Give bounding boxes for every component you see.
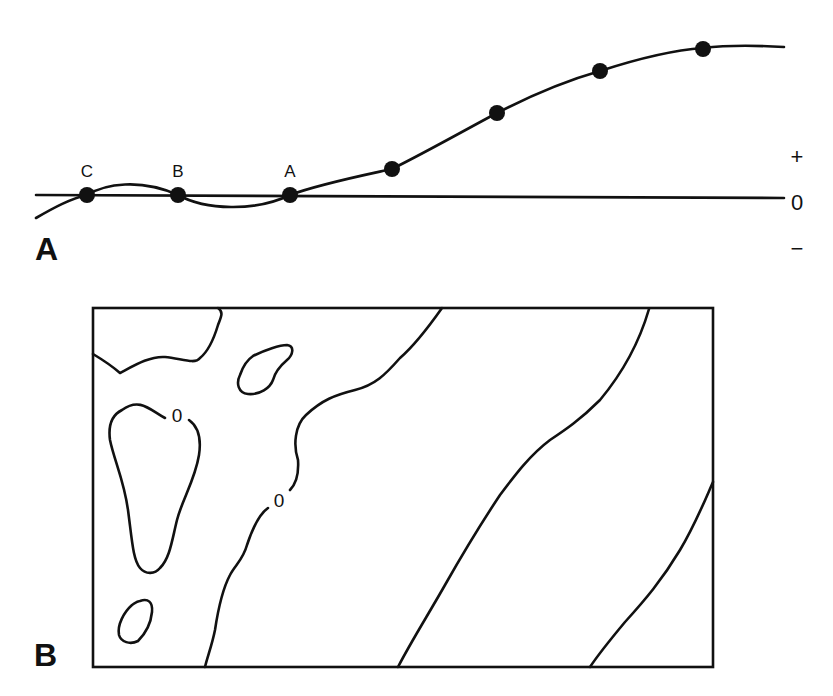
panel-a-label: A [35,231,58,267]
point-b-marker [170,187,186,203]
negative-sign-label: − [791,236,804,261]
zero-label: 0 [791,190,803,215]
point-a-marker [282,187,298,203]
map-frame [93,308,713,667]
panel-b-label: B [34,637,57,673]
figure-canvas: C B A + 0 − A 0 0 B [0,0,833,696]
contour-island-bottom [119,600,152,643]
contour-zero-central [205,308,442,667]
contour-top-left-corner [93,308,221,373]
point-a-label: A [284,162,296,181]
positive-sign-label: + [791,144,804,169]
profile-curve [36,46,784,218]
point-c-marker [79,187,95,203]
zero-baseline [36,195,784,198]
point-b-label: B [172,162,183,181]
contour-label-left: 0 [172,405,183,426]
point-6-marker [592,63,608,79]
contour-label-central: 0 [274,490,285,511]
contour-diagonal-middle [398,309,649,667]
panel-a: C B A + 0 − A [35,41,803,267]
contour-diagonal-right [590,482,713,667]
point-7-marker [695,41,711,57]
contour-zero-left-loop [110,404,200,572]
contour-island-top [238,345,292,394]
panel-b: 0 0 B [34,308,713,673]
point-5-marker [489,105,505,121]
point-4-marker [384,161,400,177]
point-c-label: C [81,162,93,181]
